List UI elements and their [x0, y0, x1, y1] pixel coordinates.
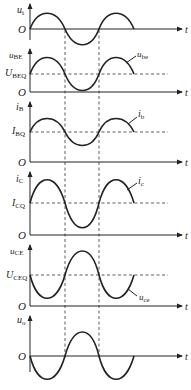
panel-ube: uBE UBEQ ube O t: [5, 49, 188, 98]
ylabel-ib: iB: [16, 101, 24, 113]
panel-uo: uo O t: [17, 314, 188, 379]
ic-waveform: [30, 180, 134, 228]
ylabel-uo: uo: [17, 314, 26, 327]
ylabel-uce: uCE: [10, 246, 23, 257]
origin-label: O: [18, 229, 26, 241]
leader-line: [128, 117, 137, 124]
panel-ib: iB IBQ ib O t: [11, 101, 188, 168]
q-label-icq: ICQ: [11, 197, 25, 210]
t-label: t: [185, 87, 188, 98]
q-label-uceq: UCEQ: [6, 269, 27, 282]
ylabel-ui: ui: [17, 4, 24, 17]
panel-ui: ui O t: [17, 4, 188, 45]
q-label-ibq: IBQ: [11, 125, 25, 138]
t-label: t: [185, 157, 188, 168]
origin-label: O: [18, 156, 26, 168]
origin-label: O: [18, 300, 26, 312]
origin-label: O: [18, 23, 26, 35]
ylabel-ic: iC: [16, 173, 24, 185]
waveform-svg: ui O t uBE UBEQ ube O t iB IBQ ib O t iC: [0, 0, 191, 390]
origin-label: O: [18, 86, 26, 98]
origin-label: O: [18, 350, 26, 362]
curve-label-uce: uce: [139, 292, 150, 304]
leader-line: [128, 289, 137, 296]
waveform-diagram: ui O t uBE UBEQ ube O t iB IBQ ib O t iC: [0, 0, 191, 390]
t-label: t: [185, 24, 188, 35]
t-label: t: [185, 230, 188, 241]
panel-ic: iC ICQ ic O t: [11, 172, 188, 241]
t-label: t: [185, 301, 188, 312]
leader-line: [126, 56, 136, 63]
curve-label-ube: ube: [137, 49, 148, 61]
t-label: t: [185, 351, 188, 362]
panel-uce: uCE UCEQ uce O t: [6, 245, 188, 312]
leader-line: [127, 183, 137, 190]
curve-label-ic: ic: [138, 175, 144, 188]
ylabel-ube: uBE: [9, 50, 22, 61]
q-label-ubeq: UBEQ: [5, 67, 26, 80]
curve-label-ib: ib: [138, 108, 145, 121]
